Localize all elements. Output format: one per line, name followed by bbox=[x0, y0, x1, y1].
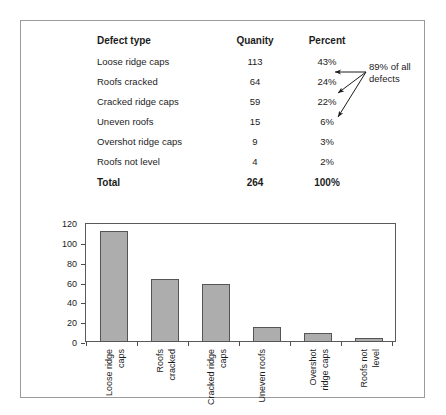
cell-defect-type: Overshot ridge caps bbox=[97, 132, 182, 152]
y-tick-label: 80 bbox=[67, 259, 77, 269]
cell-total-quantity: 264 bbox=[232, 172, 278, 194]
y-tick-mark bbox=[81, 343, 85, 344]
x-label-line: Roofs bbox=[155, 349, 167, 415]
x-label-line: Uneven roofs bbox=[257, 349, 269, 415]
x-axis-label-loose-ridge-caps: Loose ridge caps bbox=[104, 349, 130, 415]
cell-quantity: 59 bbox=[232, 92, 278, 112]
cell-quantity: 9 bbox=[232, 132, 278, 152]
y-tick-label: 120 bbox=[62, 219, 77, 229]
y-tick-label: 20 bbox=[67, 318, 77, 328]
cell-defect-type: Uneven roofs bbox=[97, 112, 154, 132]
table-header-row: Defect type Quanity Percent bbox=[77, 29, 377, 52]
cell-defect-type: Loose ridge caps bbox=[97, 52, 169, 72]
x-label-line: Roofs not bbox=[359, 349, 371, 415]
cell-quantity: 113 bbox=[232, 52, 278, 72]
bars-layer bbox=[86, 224, 395, 342]
y-tick-label: 40 bbox=[67, 298, 77, 308]
y-tick-label: 60 bbox=[67, 279, 77, 289]
column-header-percent: Percent bbox=[305, 29, 349, 52]
x-label-line: Overshot bbox=[308, 349, 320, 415]
cell-percent: 3% bbox=[305, 132, 349, 152]
x-label-line: ridge caps bbox=[320, 349, 332, 415]
x-tick-mark bbox=[239, 342, 240, 346]
x-tick-mark bbox=[341, 342, 342, 346]
x-label-line: level bbox=[371, 349, 383, 415]
x-label-line: Cracked ridge bbox=[206, 349, 218, 415]
callout-annotation: 89% of all defects bbox=[369, 61, 439, 84]
figure-frame: Defect type Quanity Percent Loose ridge … bbox=[20, 20, 425, 398]
x-label-line: Loose ridge bbox=[104, 349, 116, 415]
x-label-line: caps bbox=[116, 349, 128, 415]
x-axis-label-cracked-ridge-caps: Cracked ridge caps bbox=[206, 349, 232, 415]
y-tick-label: 100 bbox=[62, 239, 77, 249]
bar-loose-ridge-caps bbox=[100, 231, 128, 342]
x-axis-label-roofs-cracked: Roofs cracked bbox=[155, 349, 181, 415]
x-label-line: cracked bbox=[167, 349, 179, 415]
column-header-quantity: Quanity bbox=[232, 29, 278, 52]
pareto-bar-chart: 120 100 80 60 40 20 0 bbox=[21, 201, 426, 399]
cell-total-percent: 100% bbox=[305, 172, 349, 194]
column-header-defect-type: Defect type bbox=[97, 29, 151, 52]
x-axis-label-overshot-ridge-caps: Overshot ridge caps bbox=[308, 349, 334, 415]
x-label-line: caps bbox=[218, 349, 230, 415]
cell-percent: 2% bbox=[305, 152, 349, 172]
table-row: Overshot ridge caps 9 3% bbox=[77, 132, 377, 152]
bar-overshot-ridge-caps bbox=[304, 333, 332, 342]
callout-line-2: defects bbox=[369, 73, 439, 85]
cell-quantity: 15 bbox=[232, 112, 278, 132]
x-tick-mark bbox=[290, 342, 291, 346]
table-row: Roofs not level 4 2% bbox=[77, 152, 377, 172]
cell-defect-type: Roofs not level bbox=[97, 152, 160, 172]
x-tick-mark bbox=[392, 342, 393, 346]
cell-defect-type: Cracked ridge caps bbox=[97, 92, 179, 112]
x-tick-mark bbox=[188, 342, 189, 346]
x-axis-label-uneven-roofs: Uneven roofs bbox=[257, 349, 283, 415]
cell-quantity: 64 bbox=[232, 72, 278, 92]
bar-roofs-cracked bbox=[151, 279, 179, 342]
x-tick-mark bbox=[86, 342, 87, 346]
x-axis-labels: Loose ridge caps Roofs cracked Cracked r… bbox=[86, 349, 395, 399]
cell-total-label: Total bbox=[97, 172, 120, 194]
y-axis: 120 100 80 60 40 20 0 bbox=[21, 201, 83, 346]
x-axis-label-roofs-not-level: Roofs not level bbox=[359, 349, 385, 415]
callout-line-1: 89% of all bbox=[369, 61, 439, 73]
y-tick-label: 0 bbox=[72, 338, 77, 348]
bar-uneven-roofs bbox=[253, 327, 281, 342]
cell-quantity: 4 bbox=[232, 152, 278, 172]
bar-cracked-ridge-caps bbox=[202, 284, 230, 342]
cell-defect-type: Roofs cracked bbox=[97, 72, 158, 92]
table-total-row: Total 264 100% bbox=[77, 172, 377, 194]
x-tick-mark bbox=[137, 342, 138, 346]
x-axis-ticks bbox=[86, 342, 395, 347]
